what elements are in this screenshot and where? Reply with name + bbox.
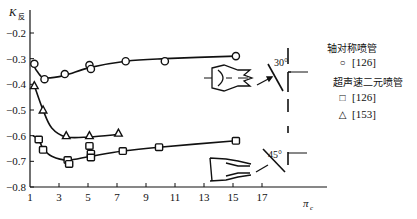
triangle-marker <box>31 82 39 89</box>
y-tick-label: −0.2 <box>6 27 26 39</box>
flow-arrow-icon <box>256 165 268 172</box>
triangle-marker <box>39 106 47 113</box>
arrowhead-icon <box>267 77 272 81</box>
legend-title-axisymmetric: 轴对称喷管 <box>327 40 377 55</box>
x-axis-title-sub: c <box>310 204 314 212</box>
circle-marker <box>31 60 38 67</box>
triangle-marker <box>115 129 123 136</box>
circle-marker <box>41 76 48 83</box>
x-tick-label: 11 <box>170 191 181 203</box>
nozzle-diagrams: 30°45° <box>204 48 308 181</box>
2d-nozzle-icon <box>210 158 251 181</box>
x-tick-label: 7 <box>114 191 120 203</box>
y-tick-label: −0.7 <box>6 155 26 167</box>
x-tick-label: 1 <box>27 191 33 203</box>
y-tick-label: −0.8 <box>6 181 26 193</box>
legend-entry-triangle: △ [153] <box>338 108 376 120</box>
x-tick-label: 3 <box>56 191 62 203</box>
circle-marker <box>87 65 94 72</box>
triangle-marker <box>62 132 70 139</box>
nozzle-inner-icon <box>218 70 223 86</box>
y-axis-title-sub: 反 <box>18 12 25 21</box>
series-line <box>34 86 118 138</box>
square-marker <box>39 146 46 153</box>
y-tick-label: −0.4 <box>6 78 26 90</box>
series-triangle <box>31 82 123 139</box>
y-tick-label: −0.6 <box>6 130 26 142</box>
square-marker <box>87 154 94 161</box>
x-tick-label: 13 <box>199 191 211 203</box>
square-marker <box>232 138 239 145</box>
triangle-marker-icon: △ <box>338 109 347 120</box>
legend-entry-circle: ○ [126] <box>338 56 376 68</box>
square-marker <box>66 161 73 168</box>
legend-label: [153] <box>352 108 376 120</box>
square-marker <box>155 144 162 151</box>
y-axis-title: K <box>8 6 17 18</box>
legend-entry-square: □ [126] <box>338 91 376 103</box>
angle-30-label: 30° <box>274 57 288 68</box>
square-marker-icon: □ <box>338 92 347 103</box>
square-marker <box>86 143 93 150</box>
legend-label: [126] <box>352 91 376 103</box>
angle-45-label: 45° <box>268 149 282 160</box>
x-tick-label: 9 <box>143 191 149 203</box>
circle-marker <box>161 58 168 65</box>
y-tick-label: −0.5 <box>6 104 26 116</box>
x-axis-title: π <box>303 197 309 209</box>
legend-title-2d-supersonic: 超声速二元喷管 <box>333 74 403 89</box>
axes: −0.2−0.3−0.4−0.5−0.6−0.7−0.8135791113151… <box>6 6 327 212</box>
square-marker <box>35 136 42 143</box>
x-tick-label: 17 <box>257 191 269 203</box>
x-tick-label: 15 <box>228 191 240 203</box>
legend-label: [126] <box>352 56 376 68</box>
square-marker <box>119 148 126 155</box>
circle-marker <box>122 58 129 65</box>
circle-marker-icon: ○ <box>338 57 347 68</box>
circle-marker <box>232 53 239 60</box>
y-tick-label: −0.3 <box>6 53 26 65</box>
triangle-marker <box>86 132 94 139</box>
series-square <box>33 136 240 168</box>
x-tick-label: 5 <box>85 191 91 203</box>
circle-marker <box>61 70 68 77</box>
